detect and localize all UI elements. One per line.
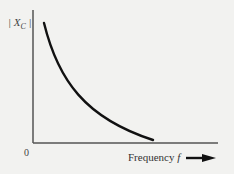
right-arrow-icon — [186, 154, 216, 162]
x-axis-variable: f — [177, 151, 180, 163]
reactance-frequency-plot — [0, 0, 234, 174]
y-axis-subscript: C — [21, 22, 26, 31]
reactance-curve — [44, 23, 153, 140]
y-axis-symbol: X — [14, 16, 21, 28]
x-axis-text: Frequency — [128, 151, 174, 163]
origin-label: 0 — [24, 147, 29, 158]
x-axis-label: Frequency f — [128, 151, 180, 163]
y-axis-label: | XC | — [8, 16, 32, 31]
